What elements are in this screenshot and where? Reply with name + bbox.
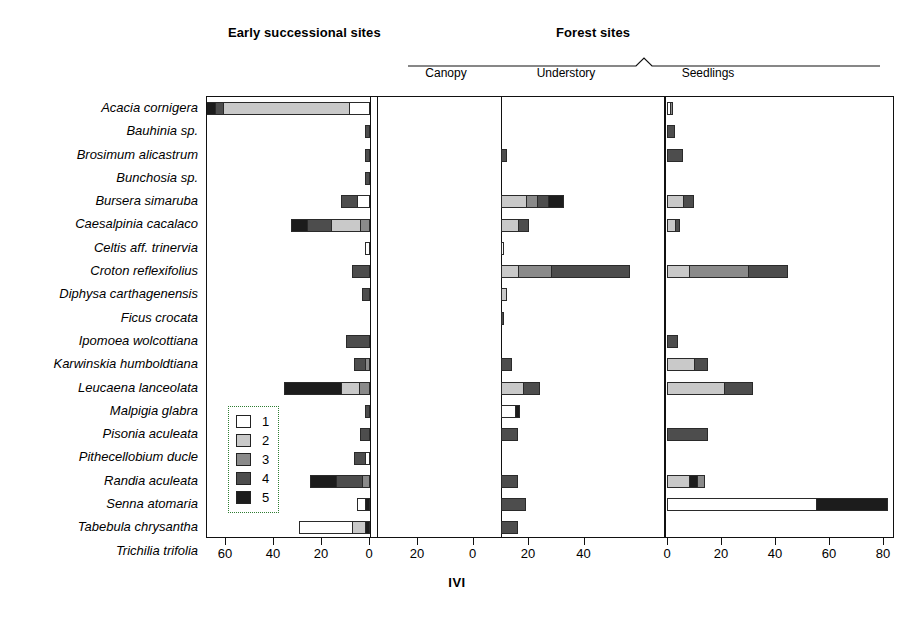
- stacked-bar: [206, 102, 370, 115]
- bar-segment-class-3: [518, 265, 551, 278]
- axis-tick: [721, 538, 722, 545]
- stacked-bar: [284, 382, 370, 395]
- stacked-bar: [501, 288, 507, 301]
- bar-row: [666, 470, 893, 493]
- bar-segment-class-4: [341, 195, 357, 208]
- bar-segment-class-5: [310, 475, 336, 488]
- stacked-bar: [667, 428, 708, 441]
- species-label: Acacia cornigera: [0, 96, 206, 119]
- bar-row: [666, 144, 893, 167]
- axis-tick-label: 40: [755, 546, 795, 561]
- axis-tick-label: 20: [397, 546, 437, 561]
- axis-tick-label: 0: [647, 546, 687, 561]
- stacked-bar: [501, 265, 630, 278]
- bar-segment-class-2: [667, 382, 724, 395]
- bar-segment-class-3: [689, 265, 748, 278]
- stacked-bar: [365, 405, 370, 418]
- figure-canvas: Early successional sites Forest sites Ca…: [0, 0, 914, 624]
- bar-segment-class-2: [667, 265, 689, 278]
- legend-label: 3: [262, 452, 269, 467]
- bar-row: [207, 283, 377, 306]
- bar-row: [378, 353, 665, 376]
- bar-segment-class-4: [667, 149, 683, 162]
- bar-segment-class-5: [291, 219, 307, 232]
- bar-segment-class-2: [667, 475, 689, 488]
- bar-row: [666, 214, 893, 237]
- stacked-bar: [501, 475, 518, 488]
- legend-label: 4: [262, 471, 269, 486]
- stacked-bar: [365, 149, 370, 162]
- legend-swatch-2: [236, 434, 251, 447]
- bar-row: [666, 423, 893, 446]
- bar-segment-class-5: [365, 498, 370, 511]
- bar-segment-class-4: [667, 428, 708, 441]
- bar-row: [207, 237, 377, 260]
- panel-seedlings: [666, 96, 894, 538]
- stacked-bar: [667, 475, 705, 488]
- bar-row: [378, 237, 665, 260]
- species-label: Caesalpinia cacalaco: [0, 212, 206, 235]
- stacked-bar: [346, 335, 370, 348]
- bar-row: [207, 377, 377, 400]
- species-label: Tabebula chrysantha: [0, 515, 206, 538]
- bar-row: [378, 283, 665, 306]
- bar-row: [378, 307, 665, 330]
- bar-row: [666, 97, 893, 120]
- bar-row: [378, 493, 665, 516]
- bar-segment-class-4: [365, 149, 370, 162]
- stacked-bar: [365, 242, 370, 255]
- legend-swatch-1: [236, 415, 251, 428]
- bar-segment-class-4: [501, 498, 526, 511]
- axis-tick-label: 80: [863, 546, 903, 561]
- bar-segment-class-4: [365, 172, 370, 185]
- axis-tick: [273, 538, 274, 545]
- bar-segment-class-1: [501, 242, 504, 255]
- bar-segment-class-4: [694, 358, 708, 371]
- bar-row: [207, 144, 377, 167]
- bar-segment-class-2: [331, 219, 360, 232]
- bar-segment-class-4: [537, 195, 548, 208]
- stacked-bar: [354, 452, 370, 465]
- axis-tick: [775, 538, 776, 545]
- bar-segment-class-2: [667, 195, 683, 208]
- stacked-bar: [365, 125, 370, 138]
- legend-label: 1: [262, 414, 269, 429]
- species-label: Bursera simaruba: [0, 189, 206, 212]
- stacked-bar: [341, 195, 370, 208]
- species-label: Diphysa carthagenensis: [0, 282, 206, 305]
- axis-tick-label: 20: [301, 546, 341, 561]
- bar-segment-class-4: [365, 125, 370, 138]
- bar-row: [207, 516, 377, 538]
- bar-row: [207, 353, 377, 376]
- bar-row: [378, 190, 665, 213]
- header-forest-sites: Forest sites: [556, 25, 630, 40]
- bar-row: [378, 516, 665, 538]
- bar-row: [207, 330, 377, 353]
- species-label: Bauhinia sp.: [0, 119, 206, 142]
- bar-segment-class-4: [346, 335, 370, 348]
- species-label: Pithecellobium ducle: [0, 445, 206, 468]
- bar-segment-class-5: [284, 382, 342, 395]
- axis-tick: [369, 538, 370, 545]
- stacked-bar: [365, 172, 370, 185]
- bar-segment-class-2: [352, 521, 365, 534]
- stacked-bar: [501, 405, 520, 418]
- legend: 12345: [228, 406, 279, 513]
- stacked-bar: [501, 428, 518, 441]
- bar-segment-class-3: [365, 358, 370, 371]
- panel-canopy-understory: [378, 96, 666, 538]
- legend-item: 4: [236, 469, 269, 488]
- header-early-successional: Early successional sites: [228, 25, 381, 40]
- bar-segment-class-1: [365, 452, 370, 465]
- legend-item: 1: [236, 412, 269, 431]
- legend-swatch-3: [236, 453, 251, 466]
- legend-label: 5: [262, 490, 269, 505]
- bar-segment-class-3: [360, 219, 370, 232]
- bar-segment-class-4: [307, 219, 331, 232]
- bar-row: [207, 190, 377, 213]
- stacked-bar: [667, 335, 678, 348]
- species-label: Senna atomaria: [0, 492, 206, 515]
- bar-segment-class-5: [206, 102, 215, 115]
- bar-segment-class-4: [360, 428, 370, 441]
- stacked-bar: [501, 195, 564, 208]
